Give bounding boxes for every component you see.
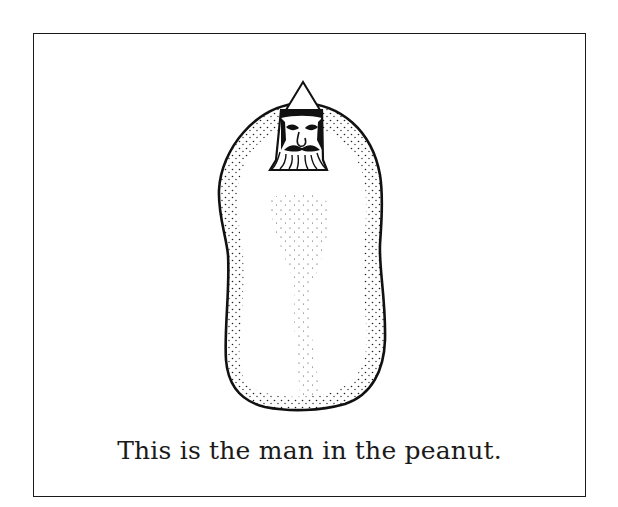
man-head-icon [270, 82, 327, 170]
peanut-illustration [0, 0, 618, 507]
caption-text: This is the man in the peanut. [33, 436, 586, 465]
